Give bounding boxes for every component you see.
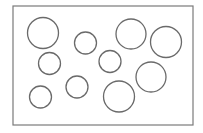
circles-diagram [0, 0, 203, 133]
circle-group [28, 18, 182, 113]
circle [116, 19, 146, 49]
circle [136, 62, 166, 92]
circle [151, 27, 182, 58]
circle [99, 51, 121, 73]
frame-rectangle [13, 6, 193, 125]
circle [104, 81, 135, 112]
circle [39, 53, 61, 75]
circle [75, 32, 97, 54]
circle [30, 86, 52, 108]
circle [28, 18, 59, 49]
circle [66, 76, 88, 98]
